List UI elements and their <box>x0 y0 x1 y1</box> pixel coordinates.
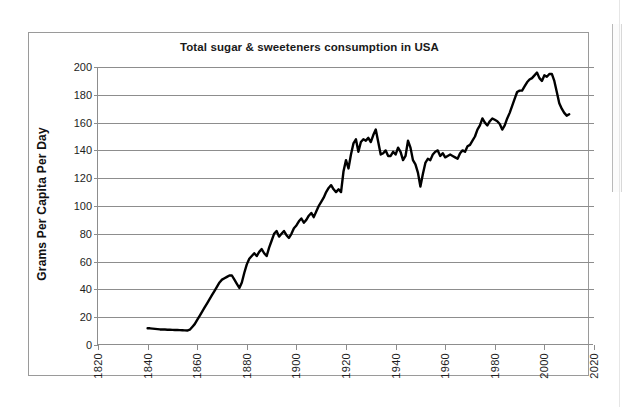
y-axis-label: Grams Per Capita Per Day <box>35 127 49 281</box>
y-axis-tick-label: 140 <box>74 144 92 156</box>
y-axis-tick-label: 60 <box>80 256 92 268</box>
data-series-line <box>98 67 594 345</box>
x-axis-tick-label: 1980 <box>489 353 501 379</box>
y-axis-tick-label: 40 <box>80 283 92 295</box>
x-axis-tick-mark <box>247 345 248 350</box>
x-axis-tick-mark <box>544 345 545 350</box>
y-axis-tick-label: 80 <box>80 228 92 240</box>
chart-page: Total sugar & sweeteners consumption in … <box>0 0 628 407</box>
page-edge-artifact-line <box>619 0 620 407</box>
y-axis-tick-label: 120 <box>74 172 92 184</box>
x-axis-tick-label: 1940 <box>390 353 402 379</box>
x-axis-tick-mark <box>346 345 347 350</box>
x-axis-tick-label: 1840 <box>142 353 154 379</box>
x-axis-tick-mark <box>296 345 297 350</box>
x-axis-tick-mark <box>445 345 446 350</box>
chart-title: Total sugar & sweeteners consumption in … <box>29 41 590 53</box>
y-axis-tick-label: 160 <box>74 117 92 129</box>
chart-frame: Total sugar & sweeteners consumption in … <box>28 32 589 376</box>
y-axis-tick-label: 20 <box>80 311 92 323</box>
y-axis-tick-label: 0 <box>86 339 92 351</box>
y-axis-tick-label: 180 <box>74 89 92 101</box>
plot-area: 020406080100120140160180200 182018401860… <box>97 67 593 345</box>
x-axis-tick-mark <box>396 345 397 350</box>
page-edge-artifact <box>612 24 622 192</box>
x-axis-tick-label: 1880 <box>241 353 253 379</box>
x-axis-tick-label: 1960 <box>439 353 451 379</box>
x-axis-tick-label: 1920 <box>340 353 352 379</box>
x-axis-tick-label: 2000 <box>538 353 550 379</box>
x-axis-tick-label: 1900 <box>290 353 302 379</box>
x-axis-tick-mark <box>98 345 99 350</box>
x-axis-tick-mark <box>197 345 198 350</box>
x-axis-tick-label: 2020 <box>588 353 600 379</box>
x-axis-tick-label: 1820 <box>92 353 104 379</box>
y-axis-tick-label: 100 <box>74 200 92 212</box>
x-axis-tick-mark <box>148 345 149 350</box>
x-axis-tick-mark <box>594 345 595 350</box>
y-axis-tick-label: 200 <box>74 61 92 73</box>
x-axis-tick-label: 1860 <box>191 353 203 379</box>
x-axis-tick-mark <box>495 345 496 350</box>
